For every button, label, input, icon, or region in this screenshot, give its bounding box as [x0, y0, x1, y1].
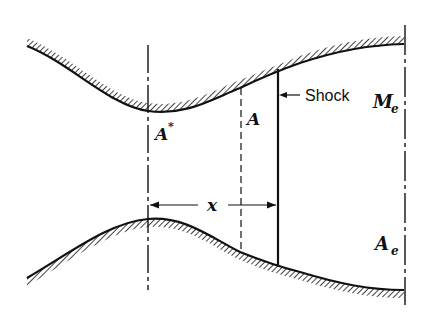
- label-shock: Shock: [305, 87, 350, 104]
- x-arrowhead-left-icon: [150, 202, 159, 209]
- label-exit-area-sub: e: [391, 244, 399, 258]
- label-exit-area: A: [373, 233, 389, 254]
- label-exit-mach-sub: e: [391, 102, 399, 116]
- label-throat-star: *: [168, 120, 174, 133]
- label-local-area: A: [245, 109, 260, 129]
- label-throat-area: A: [153, 124, 168, 144]
- x-arrowhead-right-icon: [267, 202, 276, 209]
- nozzle-diagram: A * A Shock M e A e x: [0, 0, 424, 319]
- bottom-wall: [27, 219, 404, 290]
- bottom-wall-hatch: [27, 219, 404, 298]
- label-distance-x: x: [206, 195, 218, 215]
- shock-arrowhead-icon: [279, 92, 287, 98]
